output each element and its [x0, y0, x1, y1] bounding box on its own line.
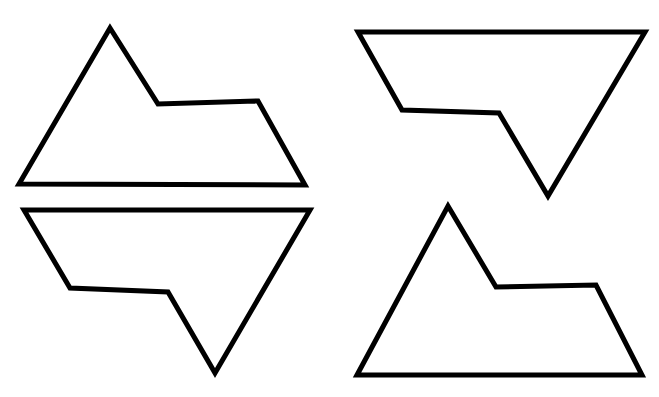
- shapes-svg: [0, 0, 659, 397]
- canvas-background: [0, 0, 659, 397]
- figure-canvas: [0, 0, 659, 397]
